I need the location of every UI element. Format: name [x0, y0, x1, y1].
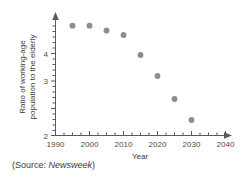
- y-tick-label-3: 3: [44, 77, 49, 86]
- x-axis: [56, 132, 233, 139]
- data-point: [189, 117, 195, 123]
- data-point: [138, 52, 144, 58]
- data-point: [104, 28, 110, 34]
- data-point: [172, 96, 178, 102]
- data-point: [121, 32, 127, 38]
- y-axis-title-line2: population to the elderly: [28, 35, 37, 120]
- source-publication: Newsweek: [49, 160, 93, 170]
- x-tick-label-2040: 2040: [217, 140, 235, 149]
- x-tick-label-2030: 2030: [183, 140, 201, 149]
- x-tick-label-2020: 2020: [149, 140, 167, 149]
- data-point: [155, 73, 161, 79]
- y-major-ticks: [51, 54, 56, 136]
- y-axis-title-line1: Ratio of working-age: [18, 40, 27, 114]
- source-note: (Source: Newsweek): [12, 160, 95, 170]
- chart-figure: 2 3 4: [0, 0, 241, 180]
- data-point: [70, 23, 76, 29]
- source-prefix: (Source:: [12, 160, 49, 170]
- source-suffix: ): [92, 160, 95, 170]
- data-point-series: [70, 23, 195, 123]
- y-axis-arrowhead: [52, 12, 59, 20]
- x-axis-title: Year: [132, 152, 149, 161]
- scatter-plot: 2 3 4: [0, 0, 241, 180]
- y-tick-label-4: 4: [44, 50, 49, 59]
- y-axis: [52, 12, 59, 136]
- data-point: [87, 23, 93, 29]
- x-tick-label-2010: 2010: [115, 140, 133, 149]
- x-tick-label-1990: 1990: [47, 140, 65, 149]
- x-tick-label-2000: 2000: [81, 140, 99, 149]
